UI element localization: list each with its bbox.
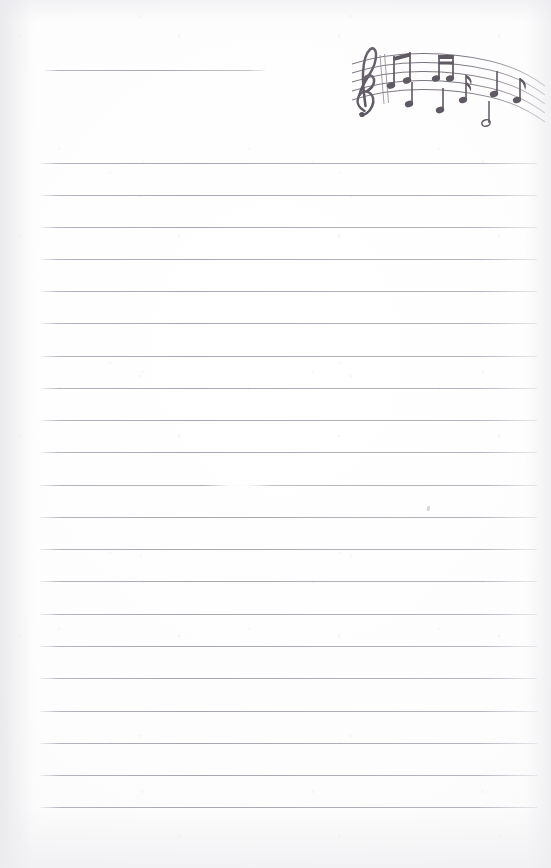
ruled-line[interactable] [40,646,537,647]
ruled-line[interactable] [40,259,537,260]
ruled-line[interactable] [40,452,537,453]
ruled-line[interactable] [40,195,537,196]
ruled-line[interactable] [40,775,537,776]
ruled-line[interactable] [40,549,537,550]
ruled-line[interactable] [40,485,537,486]
stationery-page [0,0,551,868]
ruled-line[interactable] [40,743,537,744]
ruled-line[interactable] [40,388,537,389]
ruled-line[interactable] [40,711,537,712]
ruled-line[interactable] [40,517,537,518]
title-write-in-line[interactable] [45,70,265,71]
ruled-line[interactable] [40,581,537,582]
paper-background [0,0,551,868]
ruled-line[interactable] [40,420,537,421]
ruled-line[interactable] [40,807,537,808]
ruled-line[interactable] [40,227,537,228]
ruled-line[interactable] [40,323,537,324]
ruled-line[interactable] [40,291,537,292]
ruled-line[interactable] [40,678,537,679]
ruled-line[interactable] [40,614,537,615]
ruled-line[interactable] [40,356,537,357]
ruled-line[interactable] [40,163,537,164]
